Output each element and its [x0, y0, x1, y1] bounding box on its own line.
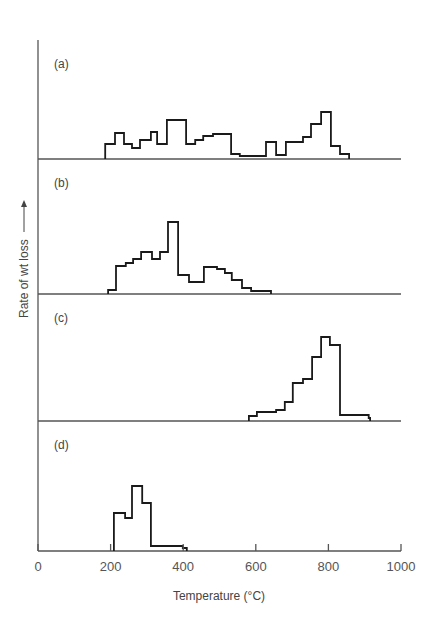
- y-axis-title: Rate of wt loss: [17, 239, 31, 318]
- x-tick-label: 1000: [387, 559, 416, 574]
- arrow-up-icon: [21, 200, 27, 207]
- step-series: [249, 337, 370, 421]
- step-series: [114, 486, 187, 551]
- panel-label: (a): [54, 57, 69, 71]
- panel-b: (b): [38, 176, 401, 294]
- x-axis-ticks: 02004006008001000: [34, 544, 415, 574]
- panel-label: (b): [54, 176, 69, 190]
- step-series: [108, 222, 271, 294]
- panel-d: (d): [38, 438, 401, 551]
- x-tick-label: 400: [172, 559, 194, 574]
- y-axis-title-group: Rate of wt loss: [17, 200, 31, 318]
- x-tick-label: 800: [318, 559, 340, 574]
- x-tick-label: 600: [245, 559, 267, 574]
- panels: (a)(b)(c)(d): [38, 57, 401, 551]
- chart: (a)(b)(c)(d) 02004006008001000 Temperatu…: [0, 0, 434, 625]
- panel-c: (c): [38, 311, 401, 421]
- x-tick-label: 200: [100, 559, 122, 574]
- x-tick-label: 0: [34, 559, 41, 574]
- panel-label: (c): [54, 311, 68, 325]
- panel-a: (a): [38, 57, 401, 159]
- panel-label: (d): [54, 438, 69, 452]
- x-axis-title: Temperature (°C): [173, 589, 265, 603]
- step-series: [105, 112, 349, 159]
